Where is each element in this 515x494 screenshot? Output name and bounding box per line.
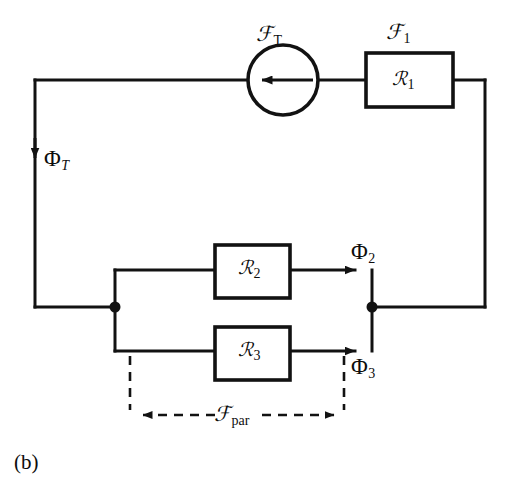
reluctance-r3-symbol-char: ℛ — [238, 338, 253, 360]
reluctance-r2-symbol-char: ℛ — [238, 256, 253, 278]
flux-total-subscript: T — [61, 158, 69, 173]
flux-branch3-subscript: 3 — [368, 366, 376, 381]
reluctance-r3-subscript: 3 — [253, 348, 261, 363]
mmf-source-subscript: T — [273, 33, 282, 48]
fpar-symbol-char: ℱ — [214, 402, 231, 426]
figure-caption: (b) — [14, 452, 39, 473]
mmf-r1-label: ℱ1 — [386, 22, 411, 46]
reluctance-r1-symbol-char: ℛ — [392, 67, 407, 89]
mmf-r1-symbol-char: ℱ — [386, 20, 403, 44]
mmf-source-symbol-char: ℱ — [256, 22, 273, 46]
junction-dot-right — [367, 302, 378, 313]
fpar-subscript: par — [231, 413, 249, 428]
flux-branch2-symbol-char: Φ — [351, 239, 368, 264]
flux-branch3-symbol-char: Φ — [351, 354, 368, 379]
flux-branch3-label: Φ3 — [351, 355, 375, 381]
flux-branch2-subscript: 2 — [368, 251, 376, 266]
mmf-source-label: ℱT — [256, 24, 282, 48]
mmf-source-symbol — [248, 45, 318, 115]
flux-total-label: ΦT — [44, 147, 69, 173]
fpar-annotation-label: ℱpar — [214, 404, 249, 428]
mmf-r1-subscript: 1 — [403, 31, 411, 46]
flux-total-symbol-char: Φ — [44, 146, 61, 171]
reluctance-r1-subscript: 1 — [407, 77, 415, 92]
junction-dot-left — [110, 302, 121, 313]
reluctance-r1-label: ℛ1 — [392, 69, 415, 92]
reluctance-r3-label: ℛ3 — [238, 340, 261, 363]
circuit-schematic — [0, 0, 515, 494]
reluctance-r2-subscript: 2 — [253, 266, 261, 281]
flux-branch2-label: Φ2 — [351, 240, 375, 266]
magnetic-circuit-figure: ℱT ℱ1 ℛ1 ℛ2 ℛ3 ΦT Φ2 Φ3 ℱpar (b) — [0, 0, 515, 494]
reluctance-r2-label: ℛ2 — [238, 258, 261, 281]
